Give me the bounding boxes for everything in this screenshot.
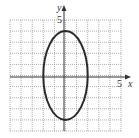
grid xyxy=(10,20,121,131)
ellipse-graph: x y 5 5 xyxy=(0,0,139,138)
y-axis-label: y xyxy=(56,2,62,13)
y-tick-label-5: 5 xyxy=(57,14,62,25)
x-axis-label: x xyxy=(127,78,133,89)
y-axis-arrow-icon xyxy=(62,5,67,11)
axes xyxy=(10,5,131,131)
x-tick-label-5: 5 xyxy=(117,78,122,89)
